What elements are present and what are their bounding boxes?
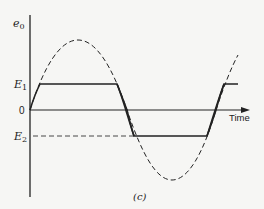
y-axis-label: e0	[13, 17, 25, 31]
x-axis-label: Time	[229, 112, 250, 123]
clipper-waveform-diagram: e0 E1 0 E2 Time (c)	[0, 0, 264, 209]
e1-label: E1	[13, 78, 27, 92]
figure-caption: (c)	[133, 191, 147, 202]
zero-label: 0	[19, 105, 25, 116]
e2-label: E2	[13, 130, 27, 144]
